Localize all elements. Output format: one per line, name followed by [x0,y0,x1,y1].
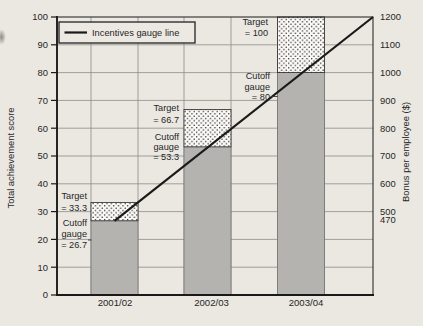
left-tick-label: 30 [38,206,48,217]
left-tick-label: 60 [38,123,48,134]
annotation-line: = 100 [245,28,268,38]
left-tick-label: 0 [43,289,48,300]
annotation-target-2003-04: Target= 100 [242,17,268,38]
left-tick-label: 90 [38,39,48,50]
annotation-line: Cutoff [155,132,180,142]
bar-target-cap-2001/02 [91,202,138,220]
annotation-line: gauge [244,82,270,92]
bar-target-cap-2002/03 [184,110,231,147]
right-axis-title: Bonus per employee ($) [400,102,411,202]
annotation-line: = 53.3 [153,152,179,162]
left-tick-label: 10 [38,262,48,273]
x-label-2001/02: 2001/02 [98,297,133,308]
left-tick-label: 100 [32,11,48,22]
bar-target-cap-2003/04 [278,17,325,73]
right-tick-label: 700 [380,150,396,161]
left-axis-title: Total achievement score [5,107,16,208]
annotation-cutoff-2002-03: Cutoffgauge= 53.3 [153,132,179,162]
x-label-2002/03: 2002/03 [194,297,229,308]
annotation-line: Cutoff [246,71,271,81]
right-tick-label: 800 [380,123,396,134]
annotation-line: gauge [153,142,179,152]
right-tick-label: 600 [380,178,396,189]
annotation-cutoff-2003-04: Cutoffgauge= 80 [244,71,277,102]
annotation-line: = 66.7 [153,115,179,125]
right-tick-label: 500 [380,206,396,217]
annotation-line: = 80 [252,92,270,102]
annotation-target-2002-03: Target= 66.7 [153,103,179,125]
right-tick-label: 900 [380,95,396,106]
right-tick-label: 1000 [380,67,401,78]
left-tick-label: 70 [38,95,48,106]
left-tick-label: 20 [38,234,48,245]
x-label-2003/04: 2003/04 [289,297,324,308]
bar-cutoff-2001/02 [91,221,138,295]
annotation-line: = 33.3 [61,203,87,213]
bar-cutoff-2003/04 [278,73,325,295]
annotation-line: Target [153,103,179,113]
legend: Incentives gauge line [59,22,195,43]
left-tick-label: 50 [38,150,48,161]
incentive-scheme-chart: 0102030405060708090100470500600700800900… [0,0,423,326]
bar-cutoff-2002/03 [184,147,231,295]
annotation-cutoff-2001-02: Cutoffgauge= 26.7 [61,218,91,250]
annotation-line: = 26.7 [61,240,87,250]
right-tick-label: 1200 [380,11,401,22]
left-tick-label: 80 [38,67,48,78]
annotation-line: Cutoff [63,218,88,228]
annotation-line: Target [61,191,87,201]
right-tick-label: 1100 [380,39,400,50]
left-tick-label: 40 [38,178,48,189]
annotation-target-2001-02: Target= 33.3 [61,191,87,213]
annotation-line: gauge [61,229,87,239]
legend-label: Incentives gauge line [92,28,179,38]
annotation-line: Target [242,17,268,27]
chart-canvas: 0102030405060708090100470500600700800900… [0,0,423,326]
